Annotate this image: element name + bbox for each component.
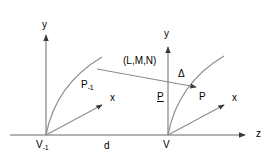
x-axis-left-label: x: [110, 93, 115, 103]
ray-curve-right: [168, 56, 224, 135]
distance-label: d: [104, 141, 110, 151]
x-axis-right-line: [168, 105, 224, 135]
y-axis-center-label: y: [164, 29, 169, 39]
point-left-subscript: -1: [88, 84, 94, 91]
point-center-label: P: [157, 92, 164, 102]
direction-cosines-label: (L,M,N): [123, 56, 156, 66]
vertex-left-symbol: V: [36, 139, 43, 150]
vertex-left-label: V-1: [36, 140, 49, 151]
step-length-label: Δ: [178, 69, 185, 79]
vertex-right-label: V: [163, 140, 170, 150]
y-axis-left-label: y: [42, 20, 47, 30]
point-left-symbol: P: [81, 79, 88, 90]
z-axis-label: z: [256, 129, 261, 139]
point-right-label: P: [199, 92, 206, 102]
x-axis-right-label: x: [232, 93, 237, 103]
vertex-left-subscript: -1: [43, 144, 49, 151]
ray-curve-left: [46, 57, 102, 135]
point-left-label: P-1: [81, 80, 94, 91]
ray-tracing-geometry-diagram: y y z x x V-1 V d P-1 P P (L,M,N) Δ: [0, 0, 273, 164]
